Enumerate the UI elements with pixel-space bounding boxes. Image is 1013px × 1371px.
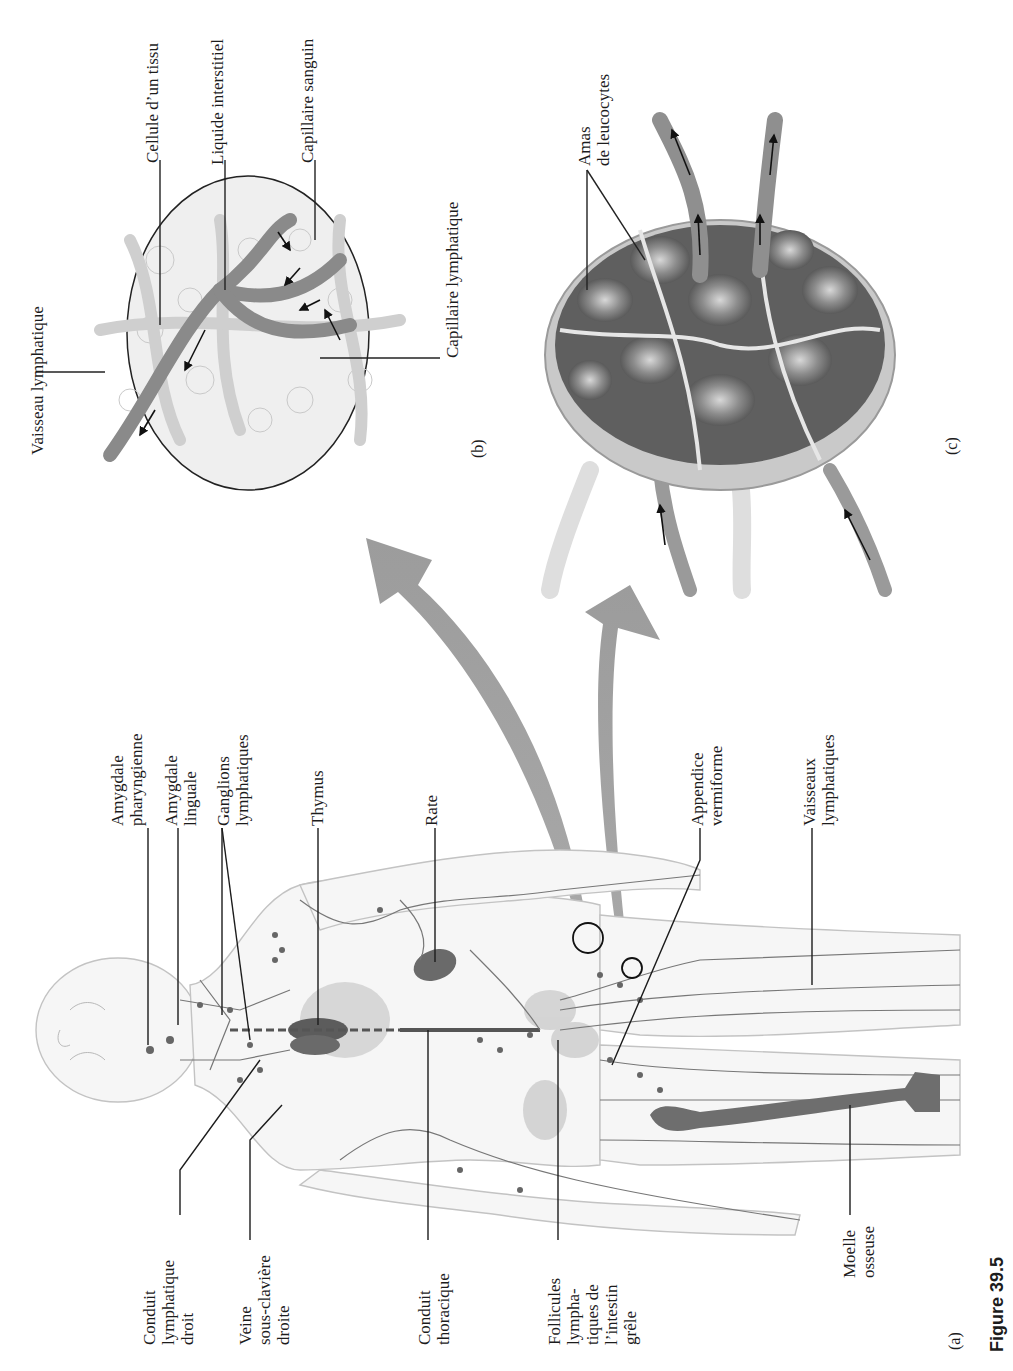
label-rate: Rate [422, 795, 441, 826]
figure-caption: Figure 39.5 [988, 1257, 1007, 1352]
panel-label-a: (a) [945, 1332, 964, 1350]
label-conduit-thoracique: Conduit thoracique [415, 1273, 453, 1345]
label-vaisseaux-lymphatiques: Vaisseaux lymphatiques [800, 734, 838, 826]
panel-b-capillary-view [36, 160, 440, 490]
label-capillaire-lymphatique: Capillaire lymphatique [443, 202, 462, 358]
label-amygdale-pharyngienne: Amygdale pharyngienne [108, 733, 146, 826]
label-conduit-lymphatique-droit: Conduit lymphatique droit [140, 1260, 197, 1345]
arrow-to-panel-c [585, 585, 660, 958]
panel-label-b: (b) [468, 439, 487, 458]
label-appendice-vermiforme: Appendice vermiforme [688, 746, 726, 826]
label-veine-sous-claviere-droite: Veine sous-clavière droite [236, 1255, 293, 1345]
label-cellule-tissu: Cellule d’un tissu [143, 43, 162, 163]
label-ganglions-lymphatiques: Ganglions lymphatiques [214, 734, 252, 826]
panel-c-lymph-node [545, 120, 895, 590]
label-amas-leucocytes: Amas de leucocytes [575, 74, 613, 166]
label-follicules-lymphatiques: Follicules lympha- tiques de l’intestin … [545, 1278, 640, 1345]
label-liquide-interstitiel: Liquide interstitiel [208, 39, 227, 165]
panel-label-c: (c) [942, 437, 961, 455]
lymphatic-system-figure [0, 0, 1013, 1371]
label-capillaire-sanguin: Capillaire sanguin [298, 39, 317, 163]
label-thymus: Thymus [308, 770, 327, 826]
label-vaisseau-lymphatique: Vaisseau lymphatique [28, 306, 47, 455]
panel-a-body [36, 828, 960, 1240]
label-amygdale-linguale: Amygdale linguale [162, 755, 200, 826]
label-moelle-osseuse: Moelle osseuse [840, 1226, 878, 1278]
